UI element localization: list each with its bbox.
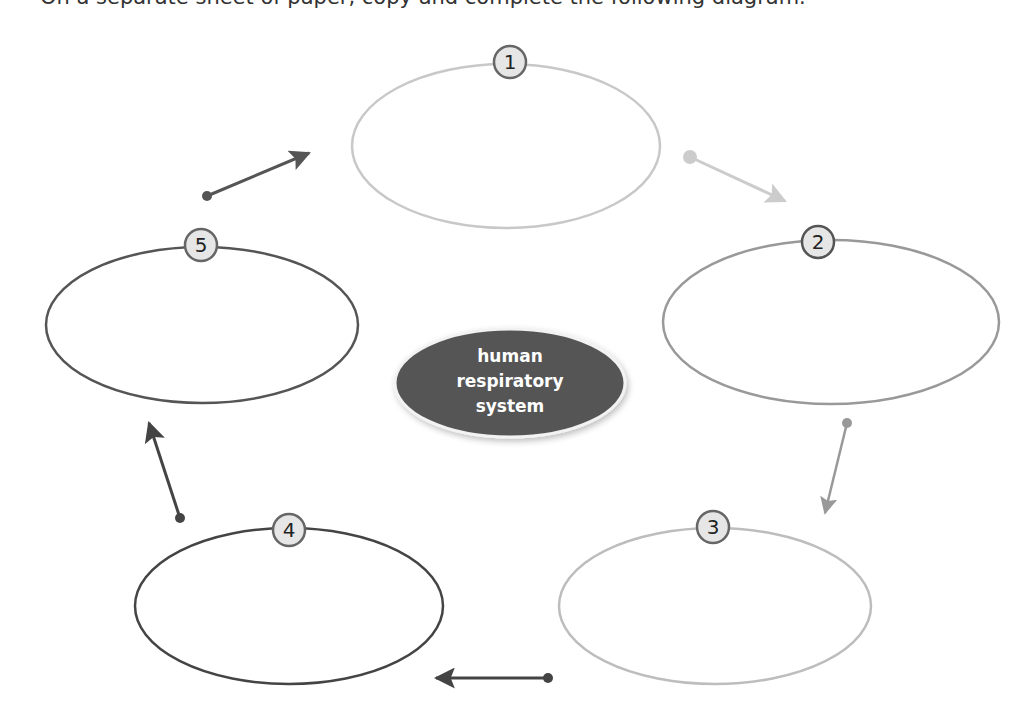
center-line-3: system: [476, 396, 545, 416]
node-3: 3: [559, 511, 871, 684]
node-4: 4: [135, 514, 443, 684]
node-2: 2: [663, 226, 999, 404]
arrow-5-to-1: [202, 153, 309, 201]
arrow-1-to-2: [683, 150, 785, 201]
node-1: 1: [352, 46, 660, 228]
center-line-2: respiratory: [456, 371, 563, 391]
node-3-ellipse[interactable]: [559, 528, 871, 684]
node-3-number: 3: [707, 515, 720, 539]
node-1-ellipse[interactable]: [352, 64, 660, 228]
node-4-badge: 4: [273, 514, 305, 546]
arrow-4-to-5: [149, 423, 185, 523]
node-4-ellipse[interactable]: [135, 528, 443, 684]
node-1-number: 1: [504, 50, 517, 74]
node-3-badge: 3: [697, 511, 729, 543]
node-5-ellipse[interactable]: [46, 247, 358, 403]
node-1-badge: 1: [494, 46, 526, 78]
node-4-number: 4: [283, 518, 296, 542]
node-5-badge: 5: [185, 229, 217, 261]
node-5: 5: [46, 229, 358, 403]
node-2-badge: 2: [802, 226, 834, 258]
center-topic: human respiratory system: [395, 329, 625, 437]
arrow-2-to-3: [825, 418, 852, 513]
node-5-number: 5: [195, 233, 208, 257]
center-line-1: human: [477, 346, 543, 366]
node-2-number: 2: [812, 230, 825, 254]
node-2-ellipse[interactable]: [663, 240, 999, 404]
respiratory-cycle-diagram: 1 2 3 4 5: [0, 0, 1024, 718]
arrow-3-to-4: [436, 673, 553, 683]
